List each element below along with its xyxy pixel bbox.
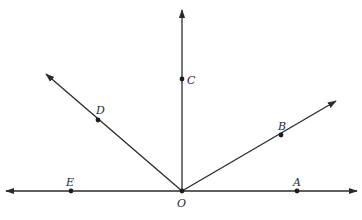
- ray-OD: [46, 74, 182, 191]
- label-O: O: [177, 197, 186, 210]
- ray-OB: [182, 101, 336, 191]
- point-B: [279, 133, 284, 138]
- label-E: E: [65, 176, 74, 189]
- geometry-diagram: O A B C D E: [0, 0, 362, 220]
- label-C: C: [187, 74, 196, 87]
- point-O: [180, 189, 185, 194]
- label-B: B: [277, 120, 286, 133]
- point-A: [295, 189, 300, 194]
- label-A: A: [292, 176, 301, 189]
- point-D: [96, 118, 101, 123]
- point-C: [180, 77, 185, 82]
- label-D: D: [95, 104, 105, 117]
- point-E: [69, 189, 74, 194]
